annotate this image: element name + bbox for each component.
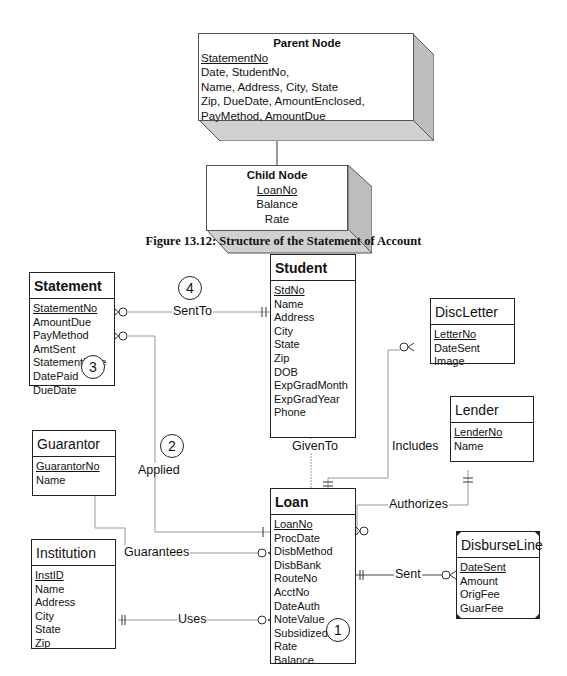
relationship-givento: GivenTo — [291, 439, 339, 453]
attribute: DOB — [274, 366, 352, 380]
relationship-guarantees: Guarantees — [123, 545, 190, 559]
primary-key: StatementNo — [33, 302, 111, 316]
relationship-uses: Uses — [177, 612, 207, 626]
relationship-includes: Includes — [391, 439, 440, 453]
attribute: ExpGradYear — [274, 393, 352, 407]
child-node-title: Child Node — [207, 168, 347, 183]
entity-student[interactable]: Student StdNo Name Address City State Zi… — [270, 254, 356, 438]
parent-node-line: Name, Address, City, State — [201, 80, 413, 95]
entity-name: Guarantor — [33, 431, 115, 457]
attribute: DueDate — [33, 384, 111, 398]
attribute: Phone — [274, 406, 352, 420]
primary-key: LenderNo — [454, 426, 530, 440]
entity-name: DiscLetter — [431, 299, 514, 325]
attribute: State — [274, 338, 352, 352]
marker-4: 4 — [178, 276, 202, 300]
marker-2: 2 — [160, 434, 184, 458]
parent-node-line: Date, StudentNo, — [201, 65, 413, 80]
primary-key: GuarantorNo — [36, 460, 112, 474]
child-node-box: Child Node LoanNo Balance Rate — [206, 165, 348, 229]
relationship-sent: Sent — [394, 567, 422, 581]
primary-key: StdNo — [274, 284, 352, 298]
attribute: Zip — [35, 637, 112, 651]
attribute: AmtSent — [33, 343, 111, 357]
relationship-sentto: SentTo — [172, 304, 213, 318]
attribute: AmountDue — [33, 316, 111, 330]
attribute: PayMethod — [33, 329, 111, 343]
primary-key: InstID — [35, 569, 112, 583]
attribute: Balance — [274, 654, 352, 668]
parent-node-key: StatementNo — [201, 51, 413, 66]
entity-name: Statement — [30, 273, 114, 299]
parent-node-line: PayMethod, AmountDue — [201, 109, 413, 124]
entity-disburseline[interactable]: DisburseLine DateSent Amount OrigFee Gua… — [456, 531, 540, 619]
entity-name: Loan — [271, 489, 355, 515]
parent-node-box: Parent Node StatementNo Date, StudentNo,… — [198, 33, 412, 119]
weak-entity-corners — [456, 531, 540, 619]
parent-node-line: Zip, DueDate, AmountEnclosed, — [201, 94, 413, 109]
relationship-authorizes: Authorizes — [388, 497, 449, 511]
marker-1: 1 — [326, 618, 350, 642]
attribute: DateAuth — [274, 600, 352, 614]
parent-node-title: Parent Node — [201, 36, 413, 51]
attribute: DisbBank — [274, 559, 352, 573]
entity-institution[interactable]: Institution InstID Name Address City Sta… — [31, 539, 116, 649]
attribute: Name — [36, 474, 112, 488]
entity-discletter[interactable]: DiscLetter LetterNo DateSent Image — [430, 298, 515, 364]
entity-guarantor[interactable]: Guarantor GuarantorNo Name — [32, 430, 116, 496]
attribute: State — [35, 623, 112, 637]
attribute: Name — [454, 440, 530, 454]
attribute: DisbMethod — [274, 545, 352, 559]
child-node-line: Balance — [207, 197, 347, 212]
attribute: Address — [35, 596, 112, 610]
marker-3: 3 — [81, 355, 105, 379]
attribute: Name — [35, 583, 112, 597]
attribute: ExpGradMonth — [274, 379, 352, 393]
attribute: Address — [274, 311, 352, 325]
entity-name: Student — [271, 255, 355, 281]
attribute: ProcDate — [274, 532, 352, 546]
relationship-applied: Applied — [137, 463, 181, 477]
attribute: RouteNo — [274, 572, 352, 586]
attribute: Zip — [274, 352, 352, 366]
attribute: City — [35, 610, 112, 624]
figure-caption: Figure 13.12: Structure of the Statement… — [0, 234, 567, 249]
entity-name: Lender — [451, 397, 533, 423]
primary-key: LetterNo — [434, 328, 511, 342]
child-node-key: LoanNo — [207, 183, 347, 198]
entity-name: Institution — [32, 540, 115, 566]
attribute: AcctNo — [274, 586, 352, 600]
primary-key: LoanNo — [274, 518, 352, 532]
attribute: City — [274, 325, 352, 339]
attribute: Image — [434, 355, 511, 369]
entity-lender[interactable]: Lender LenderNo Name — [450, 396, 534, 462]
attribute: DateSent — [434, 342, 511, 356]
attribute: Rate — [274, 640, 352, 654]
child-node-line: Rate — [207, 212, 347, 227]
attribute: Name — [274, 298, 352, 312]
